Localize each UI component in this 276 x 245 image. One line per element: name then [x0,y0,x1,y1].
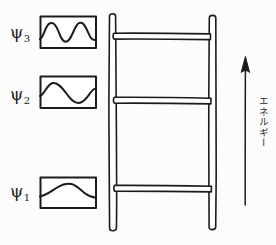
figure-canvas: ψ3 ψ2 ψ1 エネルギー [0,0,276,245]
energy-axis-label: エネルギー [252,96,270,149]
psi-3-subscript: 3 [24,33,30,44]
sketch-layer [0,0,276,245]
psi-1-symbol: ψ [10,181,23,201]
ladder-rung-bottom [114,185,212,192]
psi-2-box [41,77,97,109]
psi-1-subscript: 1 [24,192,30,203]
psi-1-label: ψ1 [10,183,30,200]
ladder-rung-top [113,33,210,39]
psi-3-label: ψ3 [10,24,30,41]
ladder-rail-right [209,15,217,229]
energy-level-ladder [109,14,216,231]
energy-arrow-head [241,57,249,73]
psi-2-group [40,77,96,109]
psi-1-group [40,178,96,209]
psi-2-subscript: 2 [24,95,30,106]
ladder-rail-left [109,14,117,231]
psi-2-label: ψ2 [10,86,30,103]
psi-3-group [40,17,96,49]
ladder-rung-middle [113,97,211,104]
psi-3-symbol: ψ [10,22,23,42]
energy-arrow [241,57,249,206]
psi-2-symbol: ψ [10,84,23,104]
